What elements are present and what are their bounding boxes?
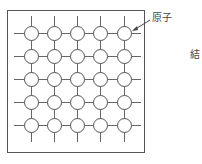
arrowhead-icon [132,26,138,31]
atom-circle [48,27,62,41]
atom-circle [25,119,39,133]
atom-circle [118,50,132,64]
atom-circle [48,73,62,87]
atom-circle [25,27,39,41]
atom-circle [118,73,132,87]
atom-circle [48,50,62,64]
atom-circle [71,73,85,87]
atom-circle [71,27,85,41]
atom-circle [94,27,108,41]
atom-circle [94,50,108,64]
atom-circle [25,73,39,87]
atom-circle [71,119,85,133]
atom-circle [118,119,132,133]
lattice-diagram [0,0,202,164]
atom-circle [118,96,132,110]
atom-circle [25,96,39,110]
atom-circle [71,96,85,110]
atom-circle [94,119,108,133]
atom-circle [25,50,39,64]
atom-circle [71,50,85,64]
atom-circle [94,96,108,110]
crystal-label: 結 [190,50,200,60]
atom-circle [118,27,132,41]
atom-circle [48,96,62,110]
atom-circle [94,73,108,87]
atom-label: 原子 [152,13,172,23]
atom-circle [48,119,62,133]
